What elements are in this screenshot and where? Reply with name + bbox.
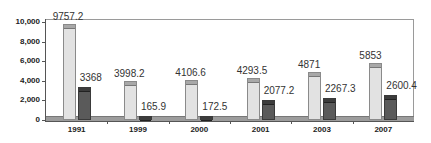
- data-label: 2267.3: [325, 83, 356, 94]
- data-label: 172.5: [202, 101, 227, 112]
- x-category-label: 1991: [57, 125, 97, 134]
- bar-series2-2007: [384, 95, 397, 120]
- data-label: 2077.2: [264, 85, 295, 96]
- data-label: 5853: [359, 50, 381, 61]
- x-category-label: 2001: [241, 125, 281, 134]
- data-label: 9757.2: [53, 11, 84, 22]
- bar-series2-1999: [139, 116, 152, 120]
- bar-cap: [186, 81, 197, 85]
- data-label: 4871: [298, 59, 320, 70]
- data-label: 3998.2: [114, 68, 145, 79]
- y-tick-label: 10,000: [2, 17, 40, 26]
- bar-cap: [263, 101, 274, 105]
- x-tick-mark: [353, 121, 354, 124]
- y-tick-label: 8,000: [2, 37, 40, 46]
- bar-series2-2000: [200, 116, 213, 120]
- y-tick-mark: [42, 22, 45, 23]
- bar-cap: [370, 64, 381, 68]
- x-category-label: 2003: [302, 125, 342, 134]
- y-tick-mark: [42, 120, 45, 121]
- y-tick-label: 2,000: [2, 95, 40, 104]
- y-axis: [45, 19, 46, 121]
- y-tick-mark: [42, 100, 45, 101]
- y-tick-mark: [42, 81, 45, 82]
- y-tick-label: 0: [2, 115, 40, 124]
- bar-series2-2003: [323, 98, 336, 120]
- bar-cap: [324, 99, 335, 103]
- x-tick-mark: [107, 121, 108, 124]
- data-label: 4106.6: [175, 67, 206, 78]
- bar-series1-1991: [63, 24, 76, 120]
- bar-series1-2001: [247, 78, 260, 120]
- x-tick-mark: [169, 121, 170, 124]
- bar-series2-1991: [78, 87, 91, 120]
- bar-cap: [125, 82, 136, 86]
- data-label: 2600.4: [386, 80, 417, 91]
- y-tick-label: 6,000: [2, 56, 40, 65]
- bar-cap: [64, 25, 75, 29]
- data-label: 4293.5: [237, 65, 268, 76]
- bar-chart: 02,0004,0006,0008,00010,000 199119992000…: [0, 0, 431, 143]
- x-tick-mark: [230, 121, 231, 124]
- y-tick-mark: [42, 42, 45, 43]
- plot-area: [45, 19, 414, 121]
- x-category-label: 2000: [179, 125, 219, 134]
- bar-series1-2007: [369, 63, 382, 120]
- bar-cap: [248, 79, 259, 83]
- x-category-label: 1999: [118, 125, 158, 134]
- data-label: 3368: [80, 72, 102, 83]
- bar-series1-2000: [185, 80, 198, 120]
- bar-cap: [385, 96, 396, 100]
- data-label: 165.9: [141, 101, 166, 112]
- bar-series2-2001: [262, 100, 275, 120]
- bar-series1-2003: [308, 72, 321, 120]
- x-category-label: 2007: [363, 125, 403, 134]
- bar-series1-1999: [124, 81, 137, 120]
- y-tick-mark: [42, 61, 45, 62]
- y-tick-label: 4,000: [2, 76, 40, 85]
- x-tick-mark: [291, 121, 292, 124]
- bar-cap: [309, 73, 320, 77]
- bar-cap: [79, 88, 90, 92]
